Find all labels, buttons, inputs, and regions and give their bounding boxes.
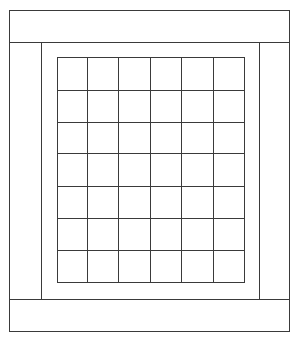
grid-lines — [58, 58, 245, 283]
quilt-diagram — [0, 0, 301, 337]
outer-border — [10, 11, 290, 332]
